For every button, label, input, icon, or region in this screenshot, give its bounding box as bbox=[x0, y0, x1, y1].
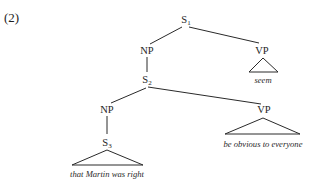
node-np1: NP bbox=[140, 45, 154, 56]
node-vp2: VP bbox=[257, 104, 271, 115]
leaf-vp1-seem: seem bbox=[254, 75, 271, 85]
tree-edges bbox=[107, 27, 261, 134]
triangle-vp2 bbox=[225, 118, 300, 134]
node-s2: S2 bbox=[142, 74, 152, 87]
triangle-s3 bbox=[72, 150, 143, 165]
example-number: (2) bbox=[4, 10, 19, 25]
edge-s1-vp1 bbox=[189, 27, 259, 43]
edge-s1-np1 bbox=[150, 27, 182, 44]
triangle-vp1 bbox=[249, 58, 278, 72]
node-s1: S1 bbox=[181, 14, 191, 27]
leaf-vp2-text: be obvious to everyone bbox=[224, 139, 303, 149]
node-vp1: VP bbox=[255, 45, 269, 56]
node-np2: NP bbox=[100, 104, 114, 115]
leaf-s3-text: that Martin was right bbox=[70, 169, 144, 179]
syntax-tree-diagram: (2) S1 NP VP S2 NP VP S3 seem be obvious… bbox=[0, 0, 325, 184]
edge-s2-np2 bbox=[111, 88, 146, 103]
edge-s2-vp2 bbox=[148, 87, 261, 104]
node-s3: S3 bbox=[102, 137, 112, 150]
